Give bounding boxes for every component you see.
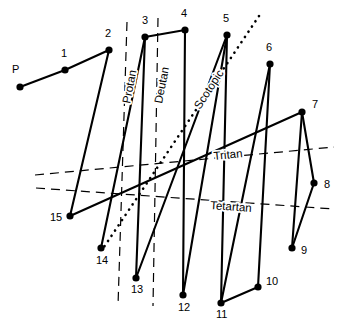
node-label-7: 7 bbox=[312, 98, 318, 110]
node-point-13[interactable] bbox=[132, 274, 139, 281]
node-point-7[interactable] bbox=[298, 108, 305, 115]
segment-10-11 bbox=[221, 287, 258, 303]
node-point-8[interactable] bbox=[310, 179, 317, 186]
node-label-4: 4 bbox=[181, 7, 187, 19]
segment-3-4 bbox=[145, 30, 185, 37]
tetartan-line-label-group: TetartanTetartan bbox=[210, 199, 252, 214]
node-point-12[interactable] bbox=[179, 291, 186, 298]
segment-7-9 bbox=[292, 112, 302, 248]
segment-1-2 bbox=[65, 50, 109, 70]
node-label-8: 8 bbox=[324, 178, 330, 190]
node-point-3[interactable] bbox=[141, 33, 148, 40]
node-point-5[interactable] bbox=[223, 31, 230, 38]
node-label-1: 1 bbox=[61, 47, 67, 59]
node-label-10: 10 bbox=[266, 275, 278, 287]
node-point-11[interactable] bbox=[217, 299, 224, 306]
node-point-4[interactable] bbox=[181, 26, 188, 33]
scotopic-line-label: Scotopic bbox=[192, 67, 226, 111]
node-label-12: 12 bbox=[178, 301, 190, 313]
tetartan-line bbox=[36, 188, 334, 209]
confusion-line-diagram: ProtanProtanDeutanDeutanScotopicScotopic… bbox=[0, 0, 339, 335]
node-label-2: 2 bbox=[105, 27, 111, 39]
segment-15-7 bbox=[70, 112, 302, 216]
node-point-15[interactable] bbox=[66, 212, 73, 219]
segment-7-8 bbox=[302, 112, 314, 183]
diagram-canvas: ProtanProtanDeutanDeutanScotopicScotopic… bbox=[0, 0, 339, 335]
node-label-13: 13 bbox=[131, 283, 143, 295]
tetartan-line-label: Tetartan bbox=[210, 199, 252, 214]
tritan-line-label-group: TritanTritan bbox=[213, 147, 243, 162]
node-label-3: 3 bbox=[142, 14, 148, 26]
node-label-P: P bbox=[12, 63, 19, 75]
segment-P-1 bbox=[20, 70, 65, 87]
scotopic-line-label-group: ScotopicScotopic bbox=[192, 67, 226, 111]
node-label-6: 6 bbox=[266, 41, 272, 53]
node-point-2[interactable] bbox=[105, 46, 112, 53]
node-label-11: 11 bbox=[216, 308, 227, 320]
node-label-5: 5 bbox=[223, 12, 229, 24]
segment-2-15 bbox=[70, 50, 109, 216]
node-point-10[interactable] bbox=[254, 283, 261, 290]
node-point-6[interactable] bbox=[266, 60, 273, 67]
deutan-line-label: Deutan bbox=[152, 66, 171, 105]
segment-4-12 bbox=[183, 30, 185, 295]
node-label-15: 15 bbox=[50, 211, 62, 223]
node-point-9[interactable] bbox=[288, 244, 295, 251]
node-point-14[interactable] bbox=[97, 244, 104, 251]
node-point-P[interactable] bbox=[16, 83, 23, 90]
tritan-line-label: Tritan bbox=[213, 147, 243, 162]
deutan-line bbox=[153, 18, 158, 306]
deutan-line-label-group: DeutanDeutan bbox=[152, 66, 171, 105]
node-label-9: 9 bbox=[301, 244, 307, 256]
node-label-14: 14 bbox=[96, 254, 108, 266]
node-point-1[interactable] bbox=[61, 66, 68, 73]
